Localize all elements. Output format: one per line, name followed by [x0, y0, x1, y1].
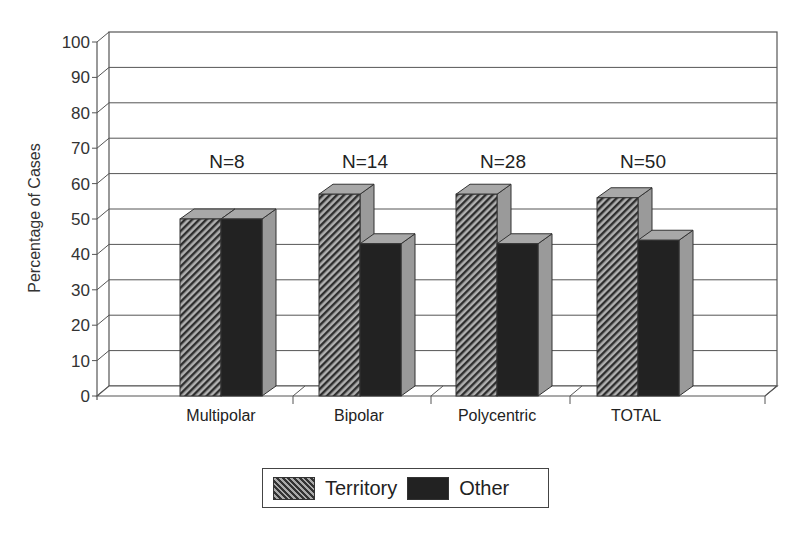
- svg-text:Bipolar: Bipolar: [334, 407, 384, 424]
- svg-text:Multipolar: Multipolar: [186, 407, 256, 424]
- svg-text:80: 80: [71, 104, 90, 123]
- svg-text:70: 70: [71, 139, 90, 158]
- svg-text:20: 20: [71, 316, 90, 335]
- svg-text:10: 10: [71, 352, 90, 371]
- other-swatch-icon: [407, 477, 449, 500]
- svg-text:N=50: N=50: [620, 151, 666, 172]
- svg-text:N=28: N=28: [480, 151, 526, 172]
- svg-text:100: 100: [62, 33, 90, 52]
- legend-label: Other: [459, 477, 509, 500]
- svg-text:TOTAL: TOTAL: [611, 407, 661, 424]
- svg-text:Percentage of Cases: Percentage of Cases: [26, 143, 43, 292]
- chart-legend: Territory Other: [262, 468, 549, 508]
- legend-item-other: Other: [407, 477, 509, 500]
- bar-chart: 0102030405060708090100Percentage of Case…: [0, 0, 800, 533]
- legend-label: Territory: [325, 477, 397, 500]
- svg-text:N=8: N=8: [209, 151, 244, 172]
- svg-text:30: 30: [71, 281, 90, 300]
- svg-text:Polycentric: Polycentric: [458, 407, 536, 424]
- svg-text:50: 50: [71, 210, 90, 229]
- svg-text:40: 40: [71, 245, 90, 264]
- svg-text:0: 0: [81, 387, 90, 406]
- svg-text:60: 60: [71, 175, 90, 194]
- svg-text:90: 90: [71, 68, 90, 87]
- legend-item-territory: Territory: [273, 477, 397, 500]
- territory-swatch-icon: [273, 477, 315, 500]
- svg-text:N=14: N=14: [342, 151, 388, 172]
